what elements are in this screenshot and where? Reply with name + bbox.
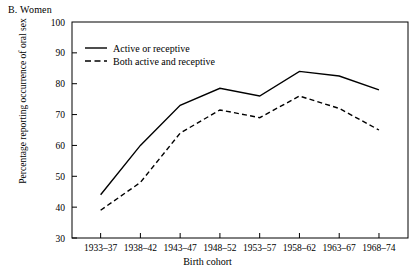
x-axis-ticks: 1933–371938–421943–471948–521953–571958–… xyxy=(84,233,396,253)
x-tick-label: 1953–57 xyxy=(243,243,277,253)
y-tick-label: 100 xyxy=(51,18,66,28)
y-tick-label: 50 xyxy=(56,172,66,182)
legend: Active or receptiveBoth active and recep… xyxy=(85,43,215,67)
y-axis-ticks: 30405060708090100 xyxy=(51,18,77,244)
x-tick-label: 1963–67 xyxy=(323,243,357,253)
line-chart-plot: 30405060708090100 1933–371938–421943–471… xyxy=(0,0,415,272)
figure-panel-b-women: B. Women Percentage reporting occurrence… xyxy=(0,0,415,272)
x-tick-label: 1943–47 xyxy=(164,243,198,253)
y-tick-label: 80 xyxy=(56,79,66,89)
y-tick-label: 70 xyxy=(56,110,66,120)
y-tick-label: 30 xyxy=(56,234,66,244)
y-tick-label: 90 xyxy=(56,48,66,58)
legend-label-2: Both active and receptive xyxy=(113,56,215,67)
x-tick-label: 1938–42 xyxy=(124,243,158,253)
y-tick-label: 40 xyxy=(56,203,66,213)
series-line-2 xyxy=(101,96,379,210)
x-tick-label: 1948–52 xyxy=(203,243,237,253)
x-tick-label: 1968–74 xyxy=(362,243,396,253)
series-line-1 xyxy=(101,71,379,194)
x-tick-label: 1958–62 xyxy=(283,243,317,253)
x-tick-label: 1933–37 xyxy=(84,243,118,253)
plot-frame xyxy=(72,22,408,238)
data-series-group xyxy=(101,71,379,210)
axes xyxy=(72,22,408,238)
y-tick-label: 60 xyxy=(56,141,66,151)
legend-label-1: Active or receptive xyxy=(113,43,190,54)
